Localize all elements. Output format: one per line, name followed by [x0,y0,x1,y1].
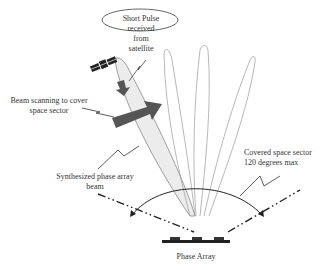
beam-lobe-3 [204,56,255,216]
label-covered-sector: Covered space sector 120 degrees max [244,148,312,168]
synthesized-line-1: Synthesized phase array [54,172,136,182]
short-pulse-line-4: satellite [116,44,166,54]
short-pulse-leader [129,60,146,81]
covered-sector-line-2: 120 degrees max [244,158,312,168]
short-pulse-line-3: from [116,34,166,44]
short-pulse-line-2: received [116,24,166,34]
synthesized-beam [115,58,195,216]
short-pulse-line-1: Short Pulse [116,14,166,24]
covered-sector-line-1: Covered space sector [244,148,312,158]
synthesized-line-2: beam [54,182,136,192]
beam-scanning-line-1: Beam scanning to cover [8,96,90,106]
covered-sector-leader [240,176,280,196]
arc-arrowhead-right [258,210,264,217]
sector-arc [132,189,262,215]
label-beam-scanning: Beam scanning to cover space sector [8,96,90,116]
synthesized-leader [98,146,139,169]
label-short-pulse: Short Pulse received from satellite [116,14,166,54]
label-synthesized-beam: Synthesized phase array beam [54,172,136,192]
beam-scanning-line-2: space sector [8,106,90,116]
beam-lobe-2 [194,46,209,217]
sector-boundary-right [228,190,300,232]
satellite-icon [90,55,118,73]
label-phase-array: Phase Array [170,252,222,262]
phase-array [162,237,230,243]
